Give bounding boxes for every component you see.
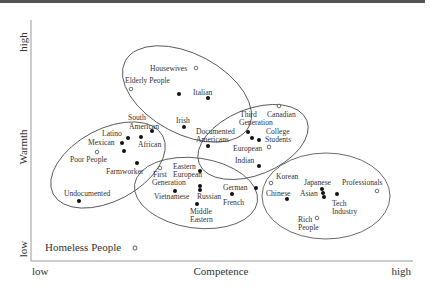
point-irish [182, 125, 186, 129]
label-indian: Indian [235, 156, 255, 165]
point-housewives [194, 66, 198, 70]
x-axis-title: Competence [194, 265, 249, 277]
y-axis-title: Warmth [17, 129, 29, 165]
label-industry: Industry [332, 207, 358, 216]
label-undocumented: Undocumented [64, 189, 111, 198]
label-elderly: Elderly People [125, 76, 171, 85]
point-japanese [320, 187, 324, 191]
point-homeless [133, 246, 137, 250]
point-college [257, 138, 261, 142]
point-unlabeled-2 [122, 149, 126, 153]
point-mexican [120, 141, 124, 145]
point-poor [95, 150, 99, 154]
label-south: South [128, 113, 146, 122]
point-professionals [375, 189, 379, 193]
point-elderly [129, 87, 133, 91]
label-generation2: Generation [152, 178, 186, 187]
label-european2: European [173, 170, 202, 179]
label-farmworker: Farmworker [106, 167, 144, 176]
data-points [77, 66, 379, 250]
label-homeless: Homeless People [45, 241, 121, 253]
point-asian-a [321, 191, 325, 195]
label-professionals: Professionals [342, 178, 383, 187]
label-students: Students [265, 135, 291, 144]
point-labels: Housewives Elderly People Italian Irish … [45, 64, 383, 253]
label-canadian: Canadian [267, 110, 296, 119]
point-latino [126, 136, 130, 140]
x-low-label: low [32, 265, 49, 277]
point-russian-a [198, 184, 202, 188]
label-vietnamese: Vietnamese [154, 192, 190, 201]
point-french [230, 192, 234, 196]
label-european: European [233, 144, 262, 153]
label-americans: Americans [196, 135, 229, 144]
point-german [254, 186, 258, 190]
label-african: African [138, 140, 161, 149]
point-unlabeled-1 [177, 92, 181, 96]
point-documented [206, 144, 210, 148]
point-tech-industry [335, 192, 339, 196]
label-french: French [223, 198, 244, 207]
label-irish: Irish [176, 116, 190, 125]
label-german: German [223, 183, 248, 192]
point-unlabeled-3 [250, 136, 254, 140]
x-high-label: high [391, 265, 411, 277]
point-african [139, 135, 143, 139]
label-poor: Poor People [70, 155, 108, 164]
point-farmworker [135, 161, 139, 165]
point-european [267, 145, 271, 149]
point-korean [269, 181, 273, 185]
label-eastern2: Eastern [190, 215, 213, 224]
point-asian-b [322, 195, 326, 199]
y-high-label: high [17, 32, 29, 52]
label-latino: Latino [102, 129, 122, 138]
label-italian: Italian [193, 88, 213, 97]
point-middle-eastern [195, 202, 199, 206]
point-undocumented [77, 199, 81, 203]
stereotype-content-chart: high Warmth low low Competence high [0, 0, 430, 293]
label-generation: Generation [239, 118, 273, 127]
point-indian [257, 164, 261, 168]
y-low-label: low [17, 241, 29, 258]
label-russian: Russian [197, 192, 221, 201]
point-rich-people [315, 216, 319, 220]
label-people: People [298, 223, 319, 232]
point-third-generation [246, 130, 250, 134]
label-japanese: Japanese [304, 178, 332, 187]
label-asian: Asian [300, 189, 318, 198]
label-mexican: Mexican [88, 138, 115, 147]
point-canadian [277, 104, 281, 108]
label-american: American [129, 122, 159, 131]
label-housewives: Housewives [150, 64, 187, 73]
label-korean: Korean [276, 172, 299, 181]
cluster-top-ellipse [106, 26, 267, 162]
label-chinese: Chinese [266, 189, 291, 198]
